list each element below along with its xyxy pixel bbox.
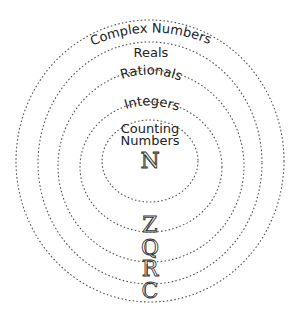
svg-text:C: C bbox=[142, 278, 159, 303]
svg-text:Z: Z bbox=[142, 212, 157, 237]
counting-label-line2: Numbers bbox=[121, 133, 180, 148]
symbol-integers: Z bbox=[142, 212, 157, 237]
rationals-label: Rationals bbox=[118, 62, 184, 83]
svg-text:N: N bbox=[140, 148, 159, 173]
number-sets-diagram: Complex Numbers Reals Rationals Integers… bbox=[0, 0, 292, 312]
integers-label: Integers bbox=[122, 93, 182, 113]
symbol-naturals: N bbox=[140, 148, 159, 173]
reals-label: Reals bbox=[134, 45, 169, 60]
symbol-complex: C bbox=[142, 278, 159, 303]
